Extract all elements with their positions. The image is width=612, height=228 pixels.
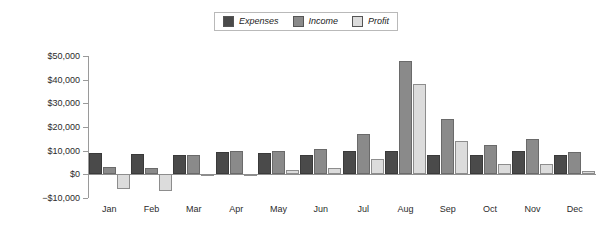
bar-profit[interactable] [286, 170, 299, 174]
bar-profit[interactable] [455, 141, 468, 174]
bar-expenses[interactable] [470, 155, 483, 174]
bar-income[interactable] [103, 167, 116, 174]
bar-group: Jun [300, 56, 342, 198]
bar-expenses[interactable] [554, 155, 567, 174]
bar-group: Oct [469, 56, 511, 198]
x-axis-tick-label: Aug [384, 204, 426, 214]
x-axis-tick-label: Jun [300, 204, 342, 214]
legend-label-income: Income [309, 17, 339, 26]
x-axis-tick-label: Jan [88, 204, 130, 214]
x-axis-tick-label: Mar [173, 204, 215, 214]
bar-group-bars [554, 56, 596, 198]
bar-income[interactable] [526, 139, 539, 175]
bar-group: Dec [554, 56, 596, 198]
bar-group-bars [130, 56, 172, 198]
bar-income[interactable] [145, 168, 158, 174]
y-axis-tick-label: $0 [70, 169, 80, 179]
legend-entry-expenses: Expenses [223, 16, 279, 27]
bar-income[interactable] [314, 149, 327, 174]
bar-group-bars [511, 56, 553, 198]
legend-label-expenses: Expenses [239, 17, 279, 26]
bar-group: Jan [88, 56, 130, 198]
bar-group-bars [384, 56, 426, 198]
legend-entry-income: Income [293, 16, 339, 27]
bar-group-bars [257, 56, 299, 198]
legend-swatch-expenses [223, 16, 234, 27]
bar-profit[interactable] [540, 164, 553, 175]
x-axis-tick-label: May [257, 204, 299, 214]
bar-group: Mar [173, 56, 215, 198]
bar-income[interactable] [187, 155, 200, 174]
bar-group: Sep [427, 56, 469, 198]
chart-legend: Expenses Income Profit [0, 12, 612, 31]
y-axis-tick [83, 198, 88, 199]
bar-expenses[interactable] [131, 154, 144, 175]
bar-group: Feb [130, 56, 172, 198]
legend-swatch-profit [352, 16, 363, 27]
bar-profit[interactable] [117, 174, 130, 188]
x-axis-tick-label: Dec [554, 204, 596, 214]
x-axis-tick-label: Sep [427, 204, 469, 214]
bar-group-bars [215, 56, 257, 198]
bar-expenses[interactable] [427, 155, 440, 174]
bar-chart: Expenses Income Profit $50,000$40,000$30… [0, 0, 612, 228]
bar-group-bars [427, 56, 469, 198]
bar-profit[interactable] [498, 164, 511, 175]
bar-profit[interactable] [328, 168, 341, 174]
bar-group-bars [342, 56, 384, 198]
bar-group: Aug [384, 56, 426, 198]
legend-swatch-income [293, 16, 304, 27]
bar-income[interactable] [230, 151, 243, 174]
y-axis-tick-label: −$10,000 [42, 193, 80, 203]
bar-expenses[interactable] [89, 153, 102, 174]
legend-label-profit: Profit [368, 17, 389, 26]
bar-expenses[interactable] [343, 151, 356, 175]
bar-profit[interactable] [413, 84, 426, 174]
bar-profit[interactable] [201, 174, 214, 176]
bar-income[interactable] [484, 145, 497, 175]
y-axis-tick-label: $50,000 [47, 51, 80, 61]
bar-profit[interactable] [244, 174, 257, 176]
bar-expenses[interactable] [173, 155, 186, 174]
bar-group: Nov [511, 56, 553, 198]
bar-group-bars [173, 56, 215, 198]
bar-expenses[interactable] [385, 151, 398, 175]
y-axis-tick-label: $20,000 [47, 122, 80, 132]
y-axis-tick-label: $10,000 [47, 146, 80, 156]
bar-expenses[interactable] [258, 153, 271, 174]
bar-income[interactable] [441, 119, 454, 175]
bar-income[interactable] [399, 61, 412, 175]
bar-group-bars [300, 56, 342, 198]
bar-expenses[interactable] [300, 155, 313, 174]
x-axis-tick-label: Apr [215, 204, 257, 214]
legend-entry-profit: Profit [352, 16, 389, 27]
bar-profit[interactable] [371, 159, 384, 174]
bar-expenses[interactable] [216, 152, 229, 174]
bar-group: Apr [215, 56, 257, 198]
x-axis-tick-label: Feb [130, 204, 172, 214]
bar-groups: JanFebMarAprMayJunJulAugSepOctNovDec [88, 56, 596, 198]
x-axis-tick-label: Oct [469, 204, 511, 214]
bar-income[interactable] [357, 134, 370, 174]
bar-group: Jul [342, 56, 384, 198]
bar-group-bars [88, 56, 130, 198]
x-axis-tick-label: Nov [511, 204, 553, 214]
x-axis-tick-label: Jul [342, 204, 384, 214]
bar-profit[interactable] [582, 171, 595, 175]
y-axis-tick-label: $40,000 [47, 75, 80, 85]
bar-income[interactable] [568, 152, 581, 174]
bar-group-bars [469, 56, 511, 198]
legend-box: Expenses Income Profit [214, 12, 398, 31]
bar-expenses[interactable] [512, 151, 525, 175]
plot-area: $50,000$40,000$30,000$20,000$10,000$0−$1… [88, 56, 596, 198]
bar-income[interactable] [272, 151, 285, 174]
bar-group: May [257, 56, 299, 198]
bar-profit[interactable] [159, 174, 172, 191]
y-axis-tick-label: $30,000 [47, 98, 80, 108]
